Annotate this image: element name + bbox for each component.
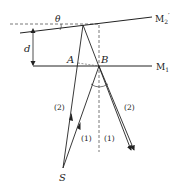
- d-label: d: [24, 43, 30, 54]
- theta-label: θ: [55, 14, 61, 24]
- mirror-m2-label: M2′: [155, 12, 170, 25]
- theta-arc: [60, 24, 61, 30]
- mirror-m1-label: M1: [156, 62, 169, 73]
- source-label: S: [59, 172, 66, 183]
- point-a-label: A: [66, 54, 74, 65]
- ray-2-left-label: (2): [54, 103, 65, 112]
- ray-1-left-label: (1): [81, 134, 92, 143]
- ray-2-reflected: [83, 25, 131, 150]
- mirror-m2-prime: [20, 17, 152, 33]
- ray-1-incident: [63, 66, 99, 168]
- ray-1-right-label: (1): [104, 134, 115, 143]
- ray-2-incident: [63, 25, 83, 168]
- point-b-label: B: [100, 54, 108, 65]
- interferometer-diagram: θ d M2′ M1 A B S (2) (2) (1) (1): [0, 0, 175, 190]
- ray-2-right-label: (2): [124, 103, 135, 112]
